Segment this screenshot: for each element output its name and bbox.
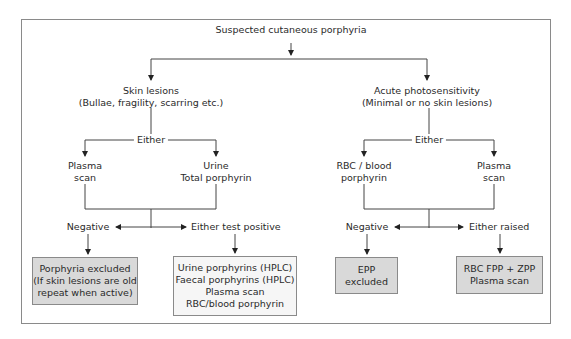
porphyria-excluded-box: Porphyria excluded (If skin lesions are … (32, 257, 138, 305)
right-option-plasma-line1: Plasma (477, 160, 511, 172)
box-line: Plasma scan (470, 275, 529, 287)
box-line: EPP (358, 264, 375, 276)
box-line: repeat when active) (37, 287, 132, 299)
right-option-rbc-line1: RBC / blood (336, 160, 391, 172)
rbc-fpp-zpp-box: RBC FPP + ZPP Plasma scan (456, 256, 543, 294)
left-positive-label: Either test positive (191, 221, 281, 233)
photosensitivity-subheading: (Minimal or no skin lesions) (362, 97, 492, 109)
right-positive-label: Either raised (469, 221, 529, 233)
left-option-urine-line1: Urine (203, 160, 228, 172)
left-positive-tests-box: Urine porphyrins (HPLC) Faecal porphyrin… (173, 256, 297, 316)
box-line: Urine porphyrins (HPLC) (178, 262, 293, 274)
box-line: (If skin lesions are old (33, 275, 137, 287)
box-line: Porphyria excluded (39, 263, 130, 275)
skin-lesions-heading: Skin lesions (123, 85, 179, 97)
skin-lesions-subheading: (Bullae, fragility, scarring etc.) (79, 97, 224, 109)
box-line: Faecal porphyrins (HPLC) (175, 274, 294, 286)
left-negative-label: Negative (67, 221, 110, 233)
right-either-label: Either (412, 134, 446, 146)
left-option-plasma-line2: scan (74, 172, 96, 184)
left-option-plasma-line1: Plasma (68, 160, 102, 172)
box-line: excluded (345, 276, 388, 288)
box-line: Plasma scan (205, 286, 264, 298)
epp-excluded-box: EPP excluded (335, 257, 398, 294)
diagram-title: Suspected cutaneous porphyria (216, 24, 367, 36)
left-either-label: Either (134, 134, 168, 146)
box-line: RBC FPP + ZPP (464, 263, 536, 275)
box-line: RBC/blood porphyrin (186, 298, 284, 310)
left-option-urine-line2: Total porphyrin (180, 172, 251, 184)
photosensitivity-heading: Acute photosensitivity (374, 85, 480, 97)
right-option-plasma-line2: scan (483, 172, 505, 184)
right-negative-label: Negative (346, 221, 389, 233)
right-option-rbc-line2: porphyrin (341, 172, 387, 184)
